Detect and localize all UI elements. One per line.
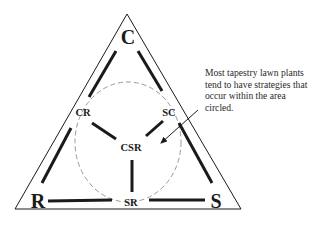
annotation-text: Most tapestry lawn plants tend to have s…: [205, 67, 320, 113]
edge-label-sr: SR: [124, 197, 138, 208]
annotation-line: occur within the area: [205, 90, 320, 102]
bar-sc-to-csr: [146, 121, 163, 136]
bar-c-to-sc: [138, 51, 162, 91]
center-label-csr: CSR: [120, 142, 141, 153]
corner-label-c: C: [121, 26, 135, 48]
edge-label-sc: SC: [162, 107, 175, 118]
corner-label-s: S: [210, 190, 221, 212]
annotation-line: tend to have strategies that: [205, 79, 320, 91]
corner-label-r: R: [31, 190, 46, 212]
edge-label-cr: CR: [75, 107, 91, 118]
annotation-line: Most tapestry lawn plants: [205, 67, 320, 79]
bar-cr-to-csr: [92, 123, 116, 139]
annotation-line: circled.: [205, 102, 320, 114]
bar-r-to-sr: [48, 200, 112, 201]
